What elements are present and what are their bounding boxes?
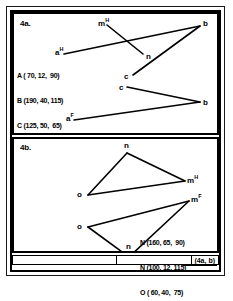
panel-4b-vertex-m-h-sup: H bbox=[194, 174, 198, 180]
coordinate-line: B (190, 40, 115) bbox=[17, 97, 63, 105]
panel-4a-vertex-a-f-sup: F bbox=[70, 112, 73, 118]
coordinate-line: A ( 70, 12, 90) bbox=[17, 72, 63, 80]
panel-4b-vertex-n-top-text: n bbox=[124, 141, 129, 150]
panel-4b: 4b. n mH o mF o n bbox=[12, 137, 219, 253]
panel-4b-vertex-m-f: mF bbox=[191, 196, 202, 204]
panel-4b-vertex-o-lower-text: o bbox=[77, 222, 82, 231]
panel-4b-vertex-n-bottom: n bbox=[126, 243, 131, 251]
panel-4a-vertex-b-top-text: b bbox=[203, 19, 208, 28]
panel-4a-vertex-c-lower: c bbox=[119, 84, 123, 92]
caption-underline bbox=[183, 264, 217, 266]
panel-4b-diagram bbox=[14, 139, 217, 251]
panel-4a-vertex-b-bottom: b bbox=[203, 99, 208, 107]
panel-4b-vertex-m-f-sup: F bbox=[198, 193, 201, 199]
panel-4a-vertex-m-h-sup: H bbox=[105, 17, 109, 23]
panel-4b-vertex-o-upper: o bbox=[77, 191, 82, 199]
panel-4a-vertex-c-upper-text: c bbox=[124, 72, 128, 81]
panel-4a-vertex-c-upper: c bbox=[124, 73, 128, 81]
figure-caption-strip: (4a, b) bbox=[12, 255, 219, 265]
coordinate-line: O ( 60, 40, 75) bbox=[140, 289, 186, 297]
panel-4a-vertex-a-f: aF bbox=[66, 115, 74, 123]
panel-4a-vertex-n: n bbox=[146, 53, 151, 61]
panel-4a-vertex-m-h: mH bbox=[98, 20, 109, 28]
coordinate-line: C (125, 50, 65) bbox=[17, 122, 63, 130]
panel-4b-vertex-o-upper-text: o bbox=[77, 190, 82, 199]
panel-4a-vertex-a-h-sup: H bbox=[59, 46, 63, 52]
panel-4a-vertex-n-text: n bbox=[146, 52, 151, 61]
panel-4a-vertex-b-bottom-text: b bbox=[203, 98, 208, 107]
panel-4b-vertex-m-h: mH bbox=[187, 177, 198, 185]
panel-4b-vertex-n-top: n bbox=[124, 142, 129, 150]
coordinate-line: N (160, 65, 90) bbox=[140, 239, 186, 247]
caption-divider bbox=[116, 256, 117, 264]
panel-4a-vertex-c-lower-text: c bbox=[119, 83, 123, 92]
panel-4b-vertex-n-bottom-text: n bbox=[126, 242, 131, 251]
panel-4b-vertex-o-lower: o bbox=[77, 223, 82, 231]
panel-4a-vertex-b-top: b bbox=[203, 20, 208, 28]
coordinate-line: N (100, 12, 115) bbox=[140, 264, 186, 272]
